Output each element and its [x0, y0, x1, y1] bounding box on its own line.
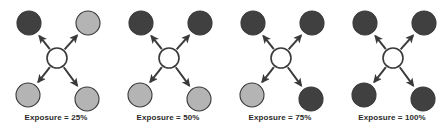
node-link-graph [336, 0, 447, 114]
arrow-to-bottom-left [262, 67, 274, 82]
peripheral-node-bottom-left-unexposed [16, 83, 40, 107]
peripheral-node-top-right-exposed [412, 11, 436, 35]
center-source-node [383, 48, 403, 68]
arrow-to-top-right [65, 35, 77, 49]
center-source-node [159, 48, 179, 68]
arrow-to-top-right [401, 35, 413, 49]
peripheral-node-top-left-exposed [353, 11, 377, 35]
arrow-to-top-left [39, 36, 50, 49]
panel-exposure-label: Exposure = 25% [0, 113, 112, 122]
arrow-to-bottom-right [400, 67, 413, 85]
peripheral-node-bottom-right-unexposed [75, 87, 99, 111]
arrow-to-bottom-left [374, 67, 386, 82]
panel-exposure-label: Exposure = 50% [112, 113, 224, 122]
peripheral-node-bottom-right-exposed [299, 87, 323, 111]
arrow-to-bottom-right [176, 67, 189, 85]
node-link-graph [0, 0, 112, 114]
exposure-panel: Exposure = 50% [112, 0, 224, 136]
peripheral-node-top-left-exposed [129, 11, 153, 35]
peripheral-node-bottom-right-unexposed [187, 87, 211, 111]
center-source-node [47, 48, 67, 68]
arrow-to-top-right [177, 35, 189, 49]
peripheral-node-top-right-exposed [300, 11, 324, 35]
arrow-to-bottom-right [288, 67, 301, 85]
peripheral-node-bottom-left-exposed [352, 83, 376, 107]
arrow-to-top-left [375, 36, 386, 49]
exposure-panel: Exposure = 25% [0, 0, 112, 136]
peripheral-node-top-right-unexposed [76, 11, 100, 35]
node-link-graph [224, 0, 336, 114]
arrow-to-top-right [289, 35, 301, 49]
peripheral-node-top-right-exposed [188, 11, 212, 35]
arrow-to-top-left [151, 36, 162, 49]
arrow-to-bottom-right [64, 67, 77, 85]
center-source-node [271, 48, 291, 68]
arrow-to-top-left [263, 36, 274, 49]
peripheral-node-bottom-left-unexposed [128, 83, 152, 107]
exposure-diagram-figure: Exposure = 25%Exposure = 50%Exposure = 7… [0, 0, 447, 136]
peripheral-node-bottom-left-unexposed [240, 83, 264, 107]
panel-exposure-label: Exposure = 100% [336, 113, 447, 122]
panel-exposure-label: Exposure = 75% [224, 113, 336, 122]
peripheral-node-top-left-exposed [241, 11, 265, 35]
arrow-to-bottom-left [150, 67, 162, 82]
exposure-panel: Exposure = 75% [224, 0, 336, 136]
peripheral-node-top-left-exposed [17, 11, 41, 35]
peripheral-node-bottom-right-exposed [411, 87, 435, 111]
node-link-graph [112, 0, 224, 114]
arrow-to-bottom-left [38, 67, 50, 82]
exposure-panel: Exposure = 100% [336, 0, 447, 136]
